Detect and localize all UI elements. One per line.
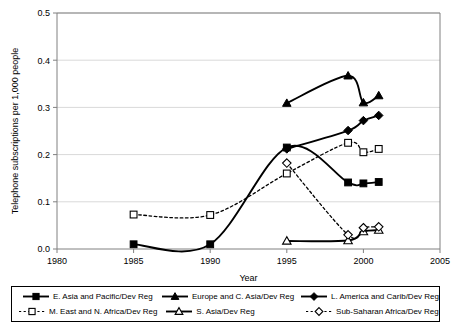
axes — [57, 13, 440, 249]
legend-item-s-asia[interactable]: S. Asia/Dev Reg — [165, 304, 305, 319]
data-point-filled-diamond — [374, 111, 383, 120]
legend-item-sub-saharan-africa[interactable]: Sub-Saharan Africa/Dev Reg — [305, 304, 439, 319]
legend-label: Sub-Saharan Africa/Dev Reg — [336, 307, 439, 317]
y-axis-title: Telephone subscriptions per 1,000 people — [10, 48, 20, 215]
x-tick-label: 2000 — [353, 256, 373, 266]
x-tick-label: 1985 — [124, 256, 144, 266]
legend-marker-filled-triangle-icon — [161, 291, 189, 302]
chart-screenshot: 0.00.10.20.30.40.51980198519901995200020… — [0, 0, 451, 334]
y-tick-label: 0.0 — [37, 244, 50, 254]
legend-marker-open-square-icon — [18, 306, 46, 317]
chart-legend: E. Asia and Pacific/Dev Reg Europe and C… — [11, 286, 440, 322]
data-point-open-square — [130, 211, 137, 218]
line-chart: 0.00.10.20.30.40.51980198519901995200020… — [0, 0, 451, 285]
x-tick-label: 1995 — [277, 256, 297, 266]
gridlines — [57, 13, 440, 202]
x-tick-label: 2005 — [430, 256, 450, 266]
legend-row-2: M. East and N. Africa/Dev Reg S. Asia/De… — [12, 304, 439, 319]
legend-marker-open-triangle-icon — [165, 306, 193, 317]
legend-label: L. America and Carib/Dev Reg — [331, 292, 439, 302]
legend-label: S. Asia/Dev Reg — [196, 307, 254, 317]
y-tick-label: 0.2 — [37, 150, 50, 160]
data-point-filled-square — [33, 293, 39, 299]
data-point-open-square — [207, 212, 214, 219]
y-tick-label: 0.4 — [37, 56, 50, 66]
data-point-filled-triangle — [374, 91, 383, 98]
data-point-filled-triangle — [359, 98, 368, 105]
data-point-filled-square — [360, 180, 367, 187]
y-tick-label: 0.5 — [37, 8, 50, 18]
legend-item-m-east-and-n-africa[interactable]: M. East and N. Africa/Dev Reg — [18, 304, 165, 319]
data-point-filled-square — [207, 241, 214, 248]
data-point-open-square — [360, 149, 367, 156]
data-point-open-square — [283, 170, 290, 177]
data-point-open-square — [29, 308, 35, 314]
data-point-filled-square — [345, 179, 352, 186]
legend-item-europe-and-c-asia[interactable]: Europe and C. Asia/Dev Reg — [161, 289, 300, 304]
legend-label: Europe and C. Asia/Dev Reg — [192, 292, 294, 302]
y-axis-ticks: 0.00.10.20.30.40.5 — [37, 8, 57, 254]
data-point-filled-square — [375, 179, 382, 186]
series-5 — [283, 159, 383, 239]
legend-marker-filled-diamond-icon — [300, 291, 328, 302]
data-point-open-square — [345, 139, 352, 146]
data-point-filled-diamond — [310, 293, 318, 301]
data-series-group — [130, 72, 383, 252]
legend-marker-filled-square-icon — [22, 291, 50, 302]
x-tick-label: 1990 — [200, 256, 220, 266]
legend-row-1: E. Asia and Pacific/Dev Reg Europe and C… — [12, 289, 439, 304]
series-line — [134, 142, 379, 218]
y-tick-label: 0.1 — [37, 197, 50, 207]
data-point-filled-square — [130, 241, 137, 248]
data-point-open-square — [375, 146, 382, 153]
y-tick-label: 0.3 — [37, 103, 50, 113]
legend-label: E. Asia and Pacific/Dev Reg — [53, 292, 153, 302]
data-point-filled-diamond — [344, 126, 353, 135]
legend-item-l-america-and-carib[interactable]: L. America and Carib/Dev Reg — [300, 289, 439, 304]
legend-item-e-asia-and-pacific[interactable]: E. Asia and Pacific/Dev Reg — [22, 289, 161, 304]
x-axis-ticks: 198019851990199520002005 — [47, 249, 450, 266]
series-1 — [283, 72, 383, 107]
x-axis-title: Year — [239, 273, 257, 283]
legend-marker-open-diamond-icon — [305, 306, 333, 317]
series-line — [287, 76, 379, 104]
legend-label: M. East and N. Africa/Dev Reg — [49, 307, 158, 317]
data-point-open-diamond — [315, 308, 323, 316]
chart-canvas: 0.00.10.20.30.40.51980198519901995200020… — [0, 0, 451, 285]
x-tick-label: 1980 — [47, 256, 67, 266]
series-4 — [283, 226, 383, 244]
series-line — [134, 146, 379, 252]
data-point-open-diamond — [283, 159, 292, 168]
